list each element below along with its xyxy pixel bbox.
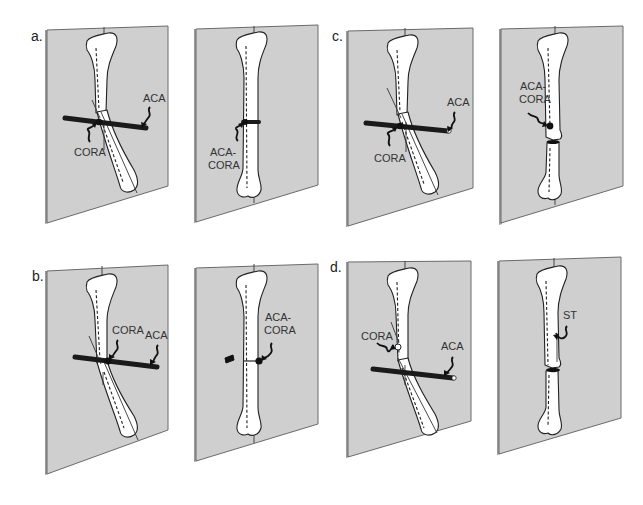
annotation-cora: CORA (74, 146, 106, 158)
annotation-cora: CORA (374, 152, 406, 164)
panel-b-before: CORA ACA (45, 265, 168, 475)
figure-cora-aca-osteotomy: a. b. c. d. CORA (0, 0, 643, 505)
panel-d-before: CORA ACA (346, 261, 471, 458)
annotation-aca: ACA (441, 340, 464, 352)
panel-c-before: CORA ACA (346, 28, 473, 227)
annotation-aca-cora-line1: ACA- (210, 146, 237, 158)
annotation-aca: ACA (143, 92, 166, 104)
panel-b-after: ACA- CORA (194, 264, 318, 462)
panel-c-after: ACA- CORA (499, 26, 623, 225)
annotation-cora: CORA (112, 324, 144, 336)
annotation-aca-cora-line2: CORA (519, 93, 551, 105)
panel-a-after: ACA- CORA (194, 25, 318, 223)
panel-d-after: ST (497, 257, 621, 455)
annotation-aca: ACA (145, 329, 168, 341)
panel-a-before: CORA ACA (45, 26, 168, 224)
annotation-aca-cora-line1: ACA- (265, 311, 292, 323)
annotation-aca-cora-line2: CORA (264, 324, 296, 336)
annotation-aca-cora-line1: ACA- (520, 80, 547, 92)
annotation-st: ST (563, 309, 577, 321)
annotation-aca-cora-line2: CORA (208, 159, 240, 171)
annotation-cora: CORA (361, 330, 393, 342)
annotation-aca: ACA (447, 96, 470, 108)
